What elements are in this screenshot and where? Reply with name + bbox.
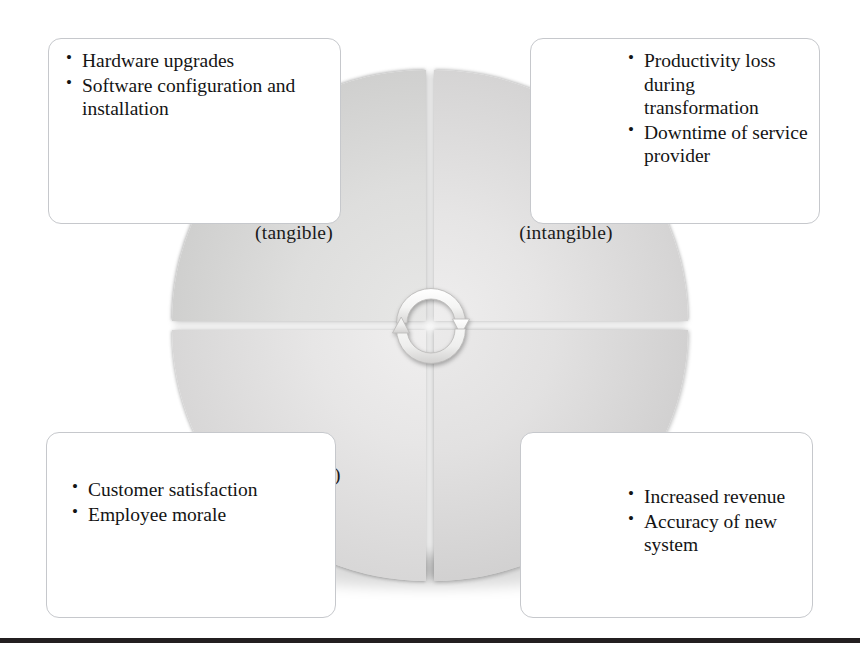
list-item: Accuracy of new system (627, 510, 802, 557)
cycle-arrows-icon (374, 269, 488, 383)
callout-list-costs-intangible: Productivity loss during transformation … (627, 49, 809, 168)
callout-box-costs-tangible[interactable]: Hardware upgrades Software configuration… (48, 38, 341, 224)
costs-benefits-quadrant-figure: Costs (tangible) Costs (intangible) Bene… (0, 0, 860, 655)
list-item: Downtime of service provider (627, 121, 809, 168)
list-item: Increased revenue (627, 485, 802, 509)
list-item: Customer satisfaction (71, 478, 321, 502)
callout-box-benefits-intangible[interactable]: Customer satisfaction Employee morale (46, 432, 336, 618)
cycle-arrow-upper (397, 289, 470, 336)
list-item: Software configuration and installation (65, 74, 326, 121)
list-item: Employee morale (71, 503, 321, 527)
bottom-divider-rule (0, 638, 860, 643)
list-item: Hardware upgrades (65, 49, 326, 73)
cycle-arrow-lower (393, 317, 466, 364)
callout-box-benefits-tangible[interactable]: Increased revenue Accuracy of new system (520, 432, 813, 618)
list-item: Productivity loss during transformation (627, 49, 809, 120)
callout-list-benefits-intangible: Customer satisfaction Employee morale (71, 478, 321, 526)
callout-list-costs-tangible: Hardware upgrades Software configuration… (65, 49, 326, 121)
callout-box-costs-intangible[interactable]: Productivity loss during transformation … (530, 38, 820, 224)
callout-list-benefits-tangible: Increased revenue Accuracy of new system (627, 485, 802, 557)
